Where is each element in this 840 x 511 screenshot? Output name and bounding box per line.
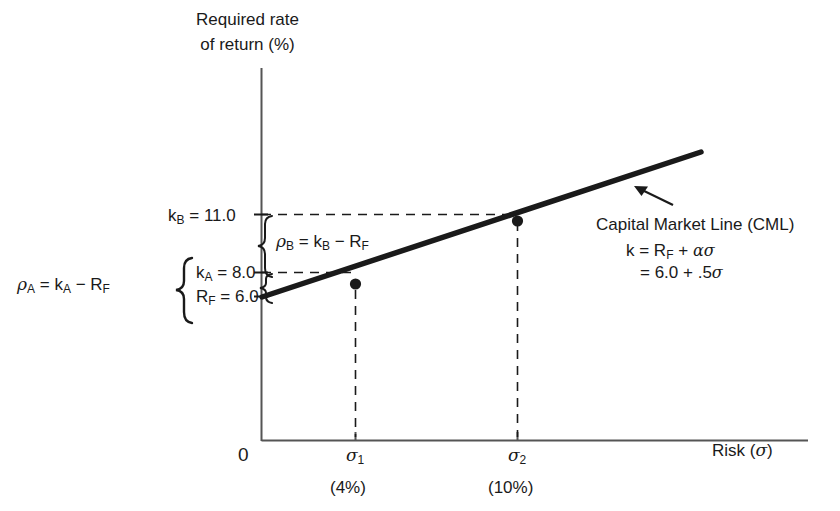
rf-value: = 6.0 xyxy=(216,287,259,306)
x-tick-label-sigma1: σ1 xyxy=(346,445,364,468)
x-axis-title-close: ) xyxy=(767,441,773,460)
rho-a-subscript-2: A xyxy=(63,282,71,296)
origin-label: 0 xyxy=(238,443,249,467)
x-axis-title: Risk (σ) xyxy=(712,440,773,461)
data-point-b xyxy=(512,215,523,226)
rho-a-subscript: A xyxy=(27,282,35,296)
kb-name: k xyxy=(168,206,177,225)
sigma2-symbol-icon: σ xyxy=(508,445,520,465)
cml-eq2-lhs: = 6.0 + .5 xyxy=(640,263,712,282)
rho-a-symbol-icon: ρ xyxy=(17,274,27,294)
y-tick-label-kb: kB = 11.0 xyxy=(168,205,236,228)
x-axis-title-text: Risk ( xyxy=(712,441,755,460)
kb-value: = 11.0 xyxy=(185,206,236,225)
rf-name: R xyxy=(196,287,208,306)
rho-a-annotation: ρA = kA − RF xyxy=(17,274,110,297)
y-axis-title: Required rate of return (%) xyxy=(196,8,299,57)
alpha-symbol-icon: α xyxy=(693,241,704,260)
cml-callout-arrow xyxy=(634,186,673,205)
ka-name: k xyxy=(196,263,205,282)
rho-a-group-brace xyxy=(176,258,192,323)
chart-figure: Required rate of return (%) Risk (σ) 0 σ… xyxy=(0,0,840,511)
kb-subscript: B xyxy=(177,213,185,227)
rho-b-subscript-2: B xyxy=(322,239,330,253)
y-axis-title-line1: Required rate xyxy=(196,8,299,33)
rf-subscript: F xyxy=(208,294,215,308)
y-axis-title-line2: of return (%) xyxy=(196,33,299,58)
ka-subscript: A xyxy=(205,270,213,284)
x-tick-label-sigma2: σ2 xyxy=(508,445,526,468)
x-tick-sublabel-sigma1: (4%) xyxy=(330,477,366,498)
cml-eq1-lhs: k = R xyxy=(626,241,666,260)
x-tick-sublabel-sigma2: (10%) xyxy=(488,477,533,498)
ka-value: = 8.0 xyxy=(213,263,256,282)
data-point-a xyxy=(350,278,361,289)
cml-equation-line1: k = RF + ασ xyxy=(626,240,715,263)
y-tick-label-ka: kA = 8.0 xyxy=(196,262,256,285)
rho-b-subscript: B xyxy=(286,239,294,253)
rho-b-brace xyxy=(258,216,272,277)
rho-a-subscript-3: F xyxy=(103,282,110,296)
rho-a-rest-1: = k xyxy=(35,275,63,294)
rho-b-symbol-icon: ρ xyxy=(276,231,286,251)
sigma1-symbol-icon: σ xyxy=(346,445,358,465)
sigma2-subscript: 2 xyxy=(520,453,527,467)
rho-b-rest-2: − R xyxy=(330,232,362,251)
rho-b-annotation: ρB = kB − RF xyxy=(276,231,369,254)
sigma-symbol-icon: σ xyxy=(755,440,767,460)
cml-eq1-subscript: F xyxy=(666,248,673,262)
rho-a-rest-2: − R xyxy=(71,275,103,294)
cml-eq1-rhs: + xyxy=(674,241,693,260)
rho-b-rest-1: = k xyxy=(294,232,322,251)
sigma1-subscript: 1 xyxy=(358,453,365,467)
sigma-symbol-icon-eq1: σ xyxy=(704,241,715,260)
cml-equation-line2: = 6.0 + .5σ xyxy=(640,262,723,283)
sigma-symbol-icon-eq2: σ xyxy=(712,263,723,282)
cml-label: Capital Market Line (CML) xyxy=(596,214,794,235)
y-tick-label-rf: RF = 6.0 xyxy=(196,286,259,309)
rho-b-subscript-3: F xyxy=(362,239,369,253)
